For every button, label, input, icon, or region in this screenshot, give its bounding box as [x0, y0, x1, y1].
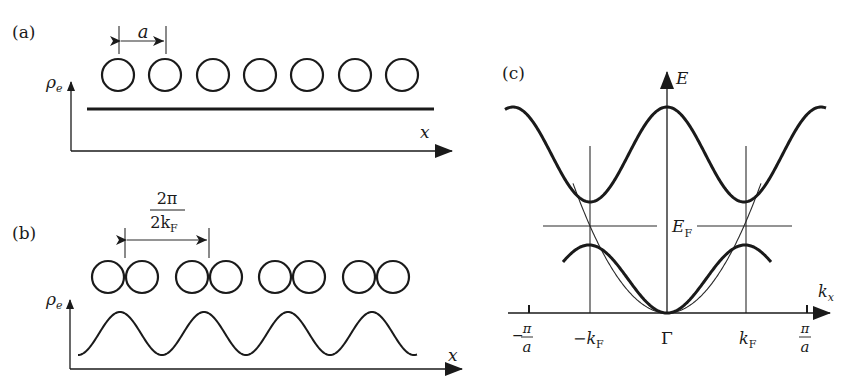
svg-text:a: a	[801, 338, 810, 356]
x-axis-label: x	[420, 122, 430, 142]
svg-text:a: a	[523, 338, 532, 356]
atom	[126, 261, 158, 293]
lattice-constant-label: a	[138, 21, 149, 42]
period-denominator: 2kF	[150, 213, 178, 235]
atom-row-uniform	[102, 59, 418, 91]
atom	[210, 261, 242, 293]
panel-b-label: (b)	[12, 223, 36, 243]
atom	[339, 59, 371, 91]
panel-c: (c) EF E kx − π a −kF Γ kF π	[502, 63, 835, 356]
atom	[377, 261, 409, 293]
atom	[197, 59, 229, 91]
x-axis-label: x	[448, 345, 458, 365]
atom	[102, 59, 134, 91]
tick-gamma: Γ	[661, 328, 673, 348]
y-axis-label: ρe	[45, 72, 63, 95]
atom	[244, 59, 276, 91]
lattice-spacing-marker: a	[119, 21, 166, 54]
tick-pi-over-a: π a	[799, 321, 811, 356]
atom	[259, 261, 291, 293]
atom	[92, 261, 124, 293]
charge-density-wave	[78, 312, 417, 355]
fermi-level-label: EF	[671, 216, 692, 240]
panel-a: (a) a ρe x	[12, 21, 452, 151]
peierls-transition-figure: (a) a ρe x (b) 2π	[0, 0, 854, 391]
panel-c-label: (c)	[502, 63, 525, 83]
atom	[149, 59, 181, 91]
tick-kf: kF	[739, 329, 757, 351]
period-numerator: 2π	[157, 189, 178, 208]
atom	[343, 261, 375, 293]
atom	[291, 59, 323, 91]
momentum-axis-label: kx	[818, 282, 835, 304]
panel-b: (b) 2π 2kF ρe x	[12, 189, 462, 369]
tick-neg-kf: −kF	[573, 329, 604, 351]
svg-text:π: π	[522, 321, 532, 336]
upper-band	[505, 107, 826, 202]
y-axis-label: ρe	[45, 289, 63, 312]
atom	[293, 261, 325, 293]
energy-axis-label: E	[675, 68, 689, 88]
atom	[176, 261, 208, 293]
tick-neg-pi-over-a: − π a	[512, 321, 533, 356]
atom-row-dimerized	[92, 261, 409, 293]
panel-a-label: (a)	[12, 22, 35, 42]
cdw-period-marker: 2π 2kF	[125, 189, 209, 258]
atom	[386, 59, 418, 91]
svg-text:π: π	[800, 321, 810, 336]
